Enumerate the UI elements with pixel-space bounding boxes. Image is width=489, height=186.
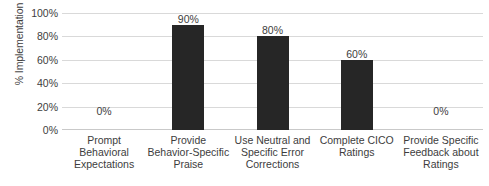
bar-group: 60%: [315, 13, 399, 130]
y-tick-label: 80%: [14, 31, 58, 42]
bar: [172, 25, 204, 130]
bar: [257, 36, 289, 130]
bar-value-label: 90%: [146, 14, 230, 25]
category-label: Prompt Behavioral Expectations: [62, 134, 146, 171]
category-label: Complete CICO Ratings: [315, 134, 399, 171]
y-tick-label: 60%: [14, 55, 58, 66]
category-label: Provide Behavior-Specific Praise: [146, 134, 230, 171]
y-axis-tick-labels: 100% 80% 60% 40% 20% 0%: [12, 0, 58, 186]
x-axis-category-labels: Prompt Behavioral Expectations Provide B…: [62, 134, 483, 171]
y-tick-label: 0%: [14, 125, 58, 136]
bar-series: 0% 90% 80% 60% 0%: [62, 13, 483, 130]
bar-value-label: 0%: [399, 106, 483, 117]
bar: [341, 60, 373, 130]
bar-group: 90%: [146, 13, 230, 130]
bar-group: 80%: [230, 13, 314, 130]
bar-value-label: 60%: [315, 49, 399, 60]
plot-area: 0% 90% 80% 60% 0%: [62, 13, 483, 130]
bar-value-label: 80%: [230, 25, 314, 36]
y-tick-label: 40%: [14, 78, 58, 89]
y-tick-label: 100%: [14, 8, 58, 19]
bar-group: 0%: [62, 13, 146, 130]
category-label: Provide Specific Feedback about Ratings: [399, 134, 483, 171]
category-label: Use Neutral and Specific Error Correctio…: [230, 134, 314, 171]
y-tick-label: 20%: [14, 102, 58, 113]
bar-chart: % Implementation 100% 80% 60% 40% 20% 0%…: [0, 0, 489, 186]
bar-value-label: 0%: [62, 106, 146, 117]
bar-group: 0%: [399, 13, 483, 130]
